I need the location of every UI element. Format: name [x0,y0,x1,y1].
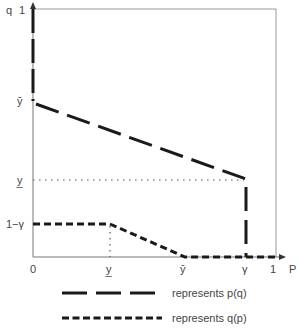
x-tick-zero: 0 [30,263,36,275]
x-tick-one: 1 [270,263,276,275]
legend-label-q-of-p: represents q(p) [172,312,247,324]
x-axis-name: P [289,263,296,275]
diagram-canvas: q 1 ȳ y̲ 1−γ 0 y̲ ȳ γ 1 P represents p(q… [0,0,301,330]
curve-q-of-p [33,224,276,257]
x-tick-yunder: y̲ [104,263,112,277]
x-tick-ybar: ȳ [180,263,186,275]
y-axis-arrow-icon [30,2,36,9]
y-tick-yunder: y̲ [15,174,23,188]
y-tick-ybar: ȳ [17,95,23,107]
y-axis-top-label: 1 [19,4,25,16]
legend-label-p-of-q: represents p(q) [172,287,247,299]
x-axis-arrow-icon [279,254,286,260]
y-tick-one-minus-gamma: 1−γ [6,218,25,230]
x-tick-gamma: γ [242,263,248,275]
y-axis-name: q [6,4,12,16]
